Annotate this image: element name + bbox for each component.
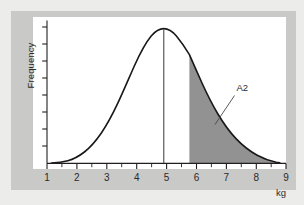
a2-leader-line [215, 96, 235, 125]
distribution-curve [52, 29, 280, 163]
shaded-tail-area [189, 55, 279, 164]
x-tick-label-1: 1 [44, 172, 50, 183]
x-axis-major-ticks [47, 163, 286, 169]
x-tick-label-6: 6 [194, 172, 200, 183]
x-tick-label-3: 3 [104, 172, 110, 183]
x-axis-unit-label: kg [276, 187, 286, 198]
x-tick-label-5: 5 [164, 172, 170, 183]
area-label-a2: A2 [237, 82, 249, 93]
x-tick-label-2: 2 [74, 172, 80, 183]
figure-container: Frequency [0, 0, 304, 205]
x-tick-label-8: 8 [254, 172, 260, 183]
x-tick-label-9: 9 [283, 172, 289, 183]
chart-svg: 1 2 3 4 5 6 7 8 9 kg A2 [0, 0, 304, 205]
x-tick-label-4: 4 [134, 172, 140, 183]
y-axis-ticks [42, 27, 47, 146]
x-tick-label-7: 7 [224, 172, 230, 183]
